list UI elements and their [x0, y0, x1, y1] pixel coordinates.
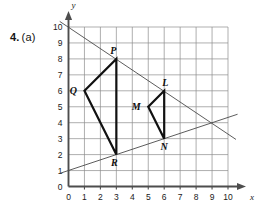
- x-tick-label: 9: [210, 192, 215, 202]
- x-tick-label: 7: [178, 192, 183, 202]
- y-tick-label-origin: 0: [58, 182, 63, 192]
- y-tick-label: 10: [53, 22, 63, 32]
- x-tick-label: 0: [66, 192, 71, 202]
- line-through-P-L: [60, 21, 236, 139]
- x-tick-label: 4: [130, 192, 135, 202]
- x-tick-label: 6: [162, 192, 167, 202]
- vertex-label-m: M: [131, 101, 142, 112]
- y-tick-label: 6: [58, 86, 63, 96]
- x-tick-label: 2: [98, 192, 103, 202]
- y-tick-label: 3: [58, 134, 63, 144]
- y-tick-label: 9: [58, 38, 63, 48]
- coordinate-geometry-figure: 4.(a) 012345678910123456789100 QPRLMN xy: [0, 0, 268, 208]
- x-tick-label: 8: [194, 192, 199, 202]
- x-axis-arrowhead: [237, 183, 246, 190]
- y-tick-label: 2: [58, 150, 63, 160]
- y-tick-label: 8: [58, 54, 63, 64]
- vertex-label-r: R: [110, 157, 118, 168]
- vertex-label-l: L: [161, 77, 168, 88]
- x-axis-name: x: [249, 192, 254, 202]
- y-tick-label: 1: [58, 166, 63, 176]
- x-tick-label: 10: [223, 192, 233, 202]
- x-tick-label: 5: [146, 192, 151, 202]
- x-tick-label: 1: [82, 192, 87, 202]
- vertex-label-n: N: [160, 141, 169, 152]
- y-tick-label: 7: [58, 70, 63, 80]
- triangle-LMN: [148, 91, 164, 139]
- axis-names: xy: [71, 0, 255, 202]
- axis-tick-labels: 012345678910123456789100: [53, 22, 233, 201]
- vertex-label-p: P: [110, 45, 117, 56]
- x-tick-label: 3: [114, 192, 119, 202]
- plotted-lines: [60, 21, 238, 173]
- vertex-label-q: Q: [70, 85, 77, 96]
- y-axis-name: y: [71, 0, 76, 10]
- coordinate-plane: 012345678910123456789100 QPRLMN xy: [0, 0, 268, 208]
- y-axis-arrowhead: [65, 11, 72, 20]
- y-tick-label: 4: [58, 118, 63, 128]
- line-through-R-N: [60, 114, 238, 173]
- y-tick-label: 5: [58, 102, 63, 112]
